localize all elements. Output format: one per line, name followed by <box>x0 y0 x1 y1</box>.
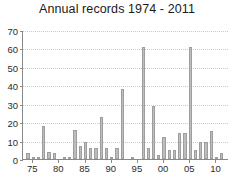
bar <box>42 126 45 159</box>
chart-title: Annual records 1974 - 2011 <box>0 2 234 16</box>
bar <box>26 153 29 159</box>
y-axis-tick-mark <box>20 31 23 32</box>
x-axis-tick-label: 05 <box>184 163 195 174</box>
x-axis-tick-label: 90 <box>105 163 116 174</box>
x-axis-tick-label: 95 <box>132 163 143 174</box>
bar <box>89 148 92 159</box>
bar <box>73 130 76 159</box>
bar <box>168 150 171 159</box>
bar <box>199 142 202 159</box>
y-axis-tick-mark <box>20 123 23 124</box>
x-axis-tick-label: 10 <box>210 163 221 174</box>
bar <box>53 153 56 159</box>
bar <box>37 157 40 159</box>
y-axis-tick-mark <box>20 86 23 87</box>
bar <box>32 157 35 159</box>
x-axis-tick-label: 80 <box>53 163 64 174</box>
bar <box>68 157 71 159</box>
bar <box>173 150 176 159</box>
bar <box>215 157 218 159</box>
bar <box>157 155 160 159</box>
y-axis-tick-label: 70 <box>0 26 18 37</box>
bar <box>204 142 207 159</box>
y-axis-tick-label: 50 <box>0 62 18 73</box>
bar <box>147 148 150 159</box>
bar <box>94 148 97 159</box>
bar <box>210 131 213 159</box>
bar <box>183 133 186 159</box>
x-axis-tick-label: 00 <box>158 163 169 174</box>
bar <box>47 152 50 159</box>
bar <box>131 157 134 159</box>
bar <box>121 89 124 159</box>
y-axis-tick-label: 60 <box>0 44 18 55</box>
bar <box>115 148 118 159</box>
bar <box>220 153 223 159</box>
x-axis-tick-label: 75 <box>27 163 38 174</box>
y-axis-tick-label: 20 <box>0 118 18 129</box>
bar <box>84 142 87 159</box>
bar <box>189 47 192 159</box>
bar <box>162 137 165 159</box>
bar <box>178 133 181 159</box>
bar <box>105 148 108 159</box>
bar <box>79 146 82 159</box>
y-axis-tick-mark <box>20 49 23 50</box>
bar <box>194 150 197 159</box>
y-axis-tick-mark <box>20 105 23 106</box>
x-axis-tick-label: 85 <box>79 163 90 174</box>
bar <box>110 157 113 159</box>
bars-group <box>23 31 228 159</box>
y-axis-tick-mark <box>20 142 23 143</box>
y-axis-tick-label: 30 <box>0 99 18 110</box>
y-axis-tick-label: 0 <box>0 155 18 166</box>
bar <box>152 106 155 159</box>
y-axis-tick-label: 40 <box>0 81 18 92</box>
y-axis-tick-mark <box>20 68 23 69</box>
y-axis-tick-label: 10 <box>0 136 18 147</box>
bar <box>100 117 103 159</box>
y-axis-tick-mark <box>20 160 23 161</box>
bar <box>63 157 66 159</box>
plot-area <box>22 31 228 160</box>
bar <box>142 47 145 159</box>
bar-chart: Annual records 1974 - 2011 0102030405060… <box>0 0 234 181</box>
